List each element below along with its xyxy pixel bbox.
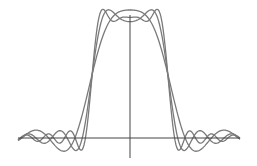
gibbs-chart: [0, 0, 257, 166]
curve-cutoff-high: [18, 9, 240, 150]
curve-cutoff-mid: [18, 10, 240, 151]
curve-cutoff-low: [18, 10, 240, 151]
curves-group: [18, 9, 240, 151]
